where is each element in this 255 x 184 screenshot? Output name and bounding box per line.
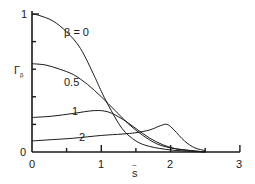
curve-label-beta-0: β = 0	[64, 26, 89, 38]
curve-label-beta-2: 2	[79, 131, 85, 143]
chart-figure: 1 0 0 1 2 3 Γ β s ~ β = 0 0.5 1 2	[0, 0, 255, 184]
svg-text:β: β	[20, 72, 24, 78]
curve-beta-0-5	[32, 64, 205, 152]
curve-label-beta-1: 1	[72, 105, 78, 117]
x-ticks	[67, 145, 240, 152]
y-tick-label-1: 1	[21, 8, 27, 20]
x-axis-title: s ~	[132, 161, 138, 179]
curves	[32, 14, 205, 152]
y-tick-label-0: 0	[20, 146, 26, 158]
svg-text:~: ~	[132, 161, 137, 170]
curve-beta-1	[32, 111, 205, 152]
y-ticks	[32, 14, 39, 124]
curve-label-beta-0-5: 0.5	[64, 76, 79, 88]
x-tick-label-1: 1	[98, 158, 104, 170]
x-tick-label-0: 0	[29, 158, 35, 170]
curve-beta-2	[32, 124, 205, 150]
curve-beta-0	[32, 14, 205, 152]
x-tick-label-3: 3	[236, 158, 242, 170]
x-tick-label-2: 2	[167, 158, 173, 170]
y-axis-title: Γ β	[14, 64, 24, 78]
